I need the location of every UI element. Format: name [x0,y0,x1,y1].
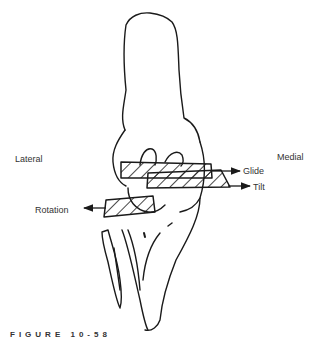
lateral-label: Lateral [15,154,43,164]
tibia-crest [143,233,160,280]
tibia-dash [168,223,172,226]
tilt-label: Tilt [253,182,265,192]
figure-caption: FIGURE 10-58 [10,330,111,339]
tibia-outline-left [122,230,148,330]
tilt-patella-bar [147,170,230,188]
glide-label: Glide [243,166,264,176]
tuberosity-mark [144,233,145,237]
fibula-inner [114,248,120,290]
femur-outline [123,13,200,142]
rotation-label: Rotation [35,205,69,215]
medial-label: Medial [277,152,304,162]
tibia-inner-line [128,230,140,290]
rotation-patella-bar [104,196,155,217]
tibia-outline-right [145,198,200,330]
knee-patella-movement-diagram: Lateral Medial Glide Tilt Rotation FIGUR… [0,0,319,339]
knee-illustration [0,0,319,339]
fibula-outline [102,230,121,308]
